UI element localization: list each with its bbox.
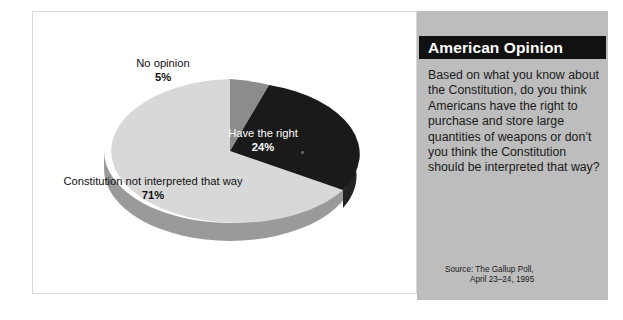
poll-question: Based on what you know about the Constit… — [428, 68, 600, 176]
label-no-opinion-value: 5% — [73, 71, 253, 85]
label-not-interpreted: Constitution not interpreted that way 71… — [0, 175, 313, 202]
label-have-right-text: Have the right — [173, 127, 353, 141]
label-have-right: Have the right 24% — [173, 127, 353, 154]
source-line-2: April 23–24, 1995 — [445, 275, 605, 285]
degree-mark-artifact: ° — [301, 151, 304, 158]
chart-card: No opinion 5% Have the right 24% ° Const… — [32, 11, 417, 294]
label-have-right-value: 24% — [173, 141, 353, 155]
sidebar-header-bar: American Opinion — [419, 36, 606, 59]
sidebar-panel: American Opinion Based on what you know … — [417, 11, 608, 300]
label-no-opinion: No opinion 5% — [73, 57, 253, 84]
source-attribution: Source: The Gallup Poll, April 23–24, 19… — [445, 265, 605, 286]
source-line-1: Source: The Gallup Poll, — [445, 265, 534, 274]
label-not-interpreted-value: 71% — [0, 189, 313, 203]
infographic-root: No opinion 5% Have the right 24% ° Const… — [0, 0, 623, 320]
pie-chart: No opinion 5% Have the right 24% ° Const… — [33, 12, 418, 295]
label-no-opinion-text: No opinion — [73, 57, 253, 71]
sidebar-title: American Opinion — [419, 39, 563, 57]
label-not-interpreted-text: Constitution not interpreted that way — [0, 175, 313, 189]
